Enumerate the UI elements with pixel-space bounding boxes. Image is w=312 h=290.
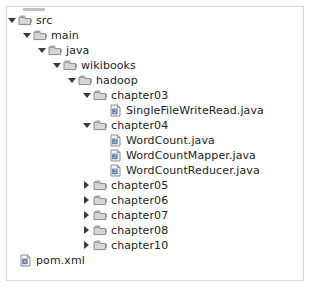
tree-item-label: WordCountMapper.java: [126, 148, 256, 163]
tree-item-label: main: [51, 28, 79, 43]
java-file-icon: J: [108, 134, 123, 147]
folder-icon: [93, 119, 108, 132]
tree-folder-row[interactable]: chapter04: [7, 118, 303, 133]
tree-file-row[interactable]: JWordCountReducer.java: [7, 163, 303, 178]
indent-spacer: [7, 170, 97, 171]
tree-file-row[interactable]: JWordCount.java: [7, 133, 303, 148]
triangle-down-icon[interactable]: [82, 118, 93, 133]
tree-folder-row[interactable]: java: [7, 43, 303, 58]
twisty-spacer: [97, 148, 108, 163]
tree-file-row[interactable]: JSingleFileWriteRead.java: [7, 103, 303, 118]
triangle-right-icon[interactable]: [82, 193, 93, 208]
indent-spacer: [7, 110, 97, 111]
java-file-icon: J: [108, 164, 123, 177]
triangle-down-icon[interactable]: [67, 73, 78, 88]
indent-spacer: [7, 95, 82, 96]
java-file-icon: J: [108, 104, 123, 117]
triangle-down-icon[interactable]: [52, 58, 63, 73]
svg-text:J: J: [114, 109, 116, 114]
tree-item-label: chapter04: [111, 118, 168, 133]
triangle-down-icon[interactable]: [7, 13, 18, 28]
triangle-down-icon[interactable]: [22, 28, 33, 43]
folder-icon: [18, 14, 33, 27]
indent-spacer: [7, 80, 67, 81]
svg-text:J: J: [114, 139, 116, 144]
indent-spacer: [7, 140, 97, 141]
folder-icon: [93, 179, 108, 192]
indent-spacer: [7, 35, 22, 36]
triangle-right-icon[interactable]: [82, 238, 93, 253]
file-tree-panel: srcmainjavawikibookshadoopchapter03JSing…: [6, 6, 304, 281]
tree-folder-row[interactable]: chapter05: [7, 178, 303, 193]
svg-text:J: J: [114, 169, 116, 174]
xml-file-icon: x: [18, 254, 33, 267]
indent-spacer: [7, 125, 82, 126]
folder-icon: [93, 209, 108, 222]
tree-item-label: wikibooks: [81, 58, 136, 73]
tree-folder-row[interactable]: chapter03: [7, 88, 303, 103]
folder-icon: [48, 44, 63, 57]
tree-item-label: chapter10: [111, 238, 168, 253]
tree-folder-row[interactable]: main: [7, 28, 303, 43]
indent-spacer: [7, 245, 82, 246]
tree-item-label: java: [66, 43, 89, 58]
tree-item-label: SingleFileWriteRead.java: [126, 103, 264, 118]
triangle-right-icon[interactable]: [82, 208, 93, 223]
indent-spacer: [7, 185, 82, 186]
folder-icon: [93, 239, 108, 252]
folder-icon: [63, 59, 78, 72]
tree-item-label: chapter08: [111, 223, 168, 238]
folder-icon: [78, 74, 93, 87]
tree-folder-row[interactable]: chapter10: [7, 238, 303, 253]
twisty-spacer: [97, 103, 108, 118]
indent-spacer: [7, 200, 82, 201]
tree-item-label: src: [36, 13, 52, 28]
triangle-right-icon[interactable]: [82, 178, 93, 193]
twisty-spacer: [7, 253, 18, 268]
tree-item-label: hadoop: [96, 73, 138, 88]
folder-icon: [93, 194, 108, 207]
tree-folder-row[interactable]: hadoop: [7, 73, 303, 88]
triangle-down-icon[interactable]: [82, 88, 93, 103]
tree-item-label: WordCountReducer.java: [126, 163, 260, 178]
twisty-spacer: [97, 163, 108, 178]
tree-folder-row[interactable]: chapter08: [7, 223, 303, 238]
tree-file-row[interactable]: xpom.xml: [7, 253, 303, 268]
indent-spacer: [7, 230, 82, 231]
tree-item-label: chapter05: [111, 178, 168, 193]
indent-spacer: [7, 65, 52, 66]
indent-spacer: [7, 50, 37, 51]
scrollbar-thumb[interactable]: [23, 8, 45, 11]
folder-icon: [93, 89, 108, 102]
file-tree: srcmainjavawikibookshadoopchapter03JSing…: [7, 13, 303, 268]
twisty-spacer: [97, 133, 108, 148]
folder-icon: [93, 224, 108, 237]
svg-text:J: J: [114, 154, 116, 159]
svg-text:x: x: [24, 259, 27, 264]
triangle-down-icon[interactable]: [37, 43, 48, 58]
tree-folder-row[interactable]: chapter07: [7, 208, 303, 223]
tree-folder-row[interactable]: src: [7, 13, 303, 28]
tree-item-label: chapter03: [111, 88, 168, 103]
tree-folder-row[interactable]: chapter06: [7, 193, 303, 208]
folder-icon: [33, 29, 48, 42]
indent-spacer: [7, 155, 97, 156]
tree-item-label: chapter06: [111, 193, 168, 208]
tree-folder-row[interactable]: wikibooks: [7, 58, 303, 73]
triangle-right-icon[interactable]: [82, 223, 93, 238]
tree-item-label: WordCount.java: [126, 133, 215, 148]
indent-spacer: [7, 215, 82, 216]
tree-file-row[interactable]: JWordCountMapper.java: [7, 148, 303, 163]
tree-item-label: chapter07: [111, 208, 168, 223]
tree-item-label: pom.xml: [36, 253, 85, 268]
java-file-icon: J: [108, 149, 123, 162]
